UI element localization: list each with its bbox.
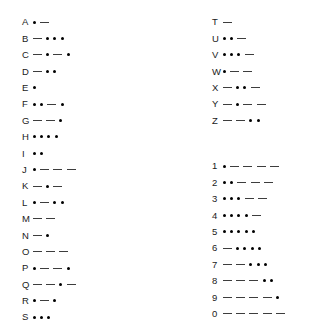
morse-dash-icon <box>243 166 252 167</box>
morse-row: 4 <box>212 207 300 223</box>
morse-dash-icon <box>46 218 55 219</box>
morse-dash-icon <box>40 169 49 170</box>
morse-dash-icon <box>230 166 239 167</box>
morse-row-symbols <box>223 207 261 223</box>
morse-dash-icon <box>243 104 252 105</box>
morse-dash-icon <box>33 38 42 39</box>
morse-row: 6 <box>212 240 300 256</box>
morse-row-character: 9 <box>212 293 223 303</box>
morse-dot-icon <box>243 86 246 89</box>
morse-row-symbols <box>223 273 273 289</box>
morse-row: Z <box>212 112 300 128</box>
morse-row-symbols <box>223 63 252 79</box>
morse-row-symbols <box>33 145 43 161</box>
morse-dot-icon <box>230 214 233 217</box>
morse-row: J <box>22 162 152 178</box>
morse-dash-icon <box>223 120 232 121</box>
morse-dash-icon <box>243 71 252 72</box>
morse-dot-icon <box>270 279 273 282</box>
morse-row-character: J <box>22 165 33 175</box>
morse-dash-icon <box>237 38 246 39</box>
morse-dot-icon <box>61 201 64 204</box>
morse-row: P <box>22 260 152 276</box>
morse-dot-icon <box>61 37 64 40</box>
morse-row-character: Z <box>212 116 223 126</box>
morse-dot-icon <box>40 135 43 138</box>
morse-dot-icon <box>276 296 279 299</box>
morse-row: 7 <box>212 256 300 272</box>
morse-row-symbols <box>33 47 70 63</box>
morse-dash-icon <box>33 218 42 219</box>
morse-dot-icon <box>223 181 226 184</box>
morse-dash-icon <box>249 280 258 281</box>
morse-row-symbols <box>223 224 255 240</box>
morse-dash-icon <box>33 120 42 121</box>
morse-dash-icon <box>236 120 245 121</box>
morse-row-symbols <box>33 276 76 292</box>
morse-row-character: X <box>212 83 223 93</box>
morse-dot-icon <box>237 214 240 217</box>
morse-dash-icon <box>223 313 232 314</box>
morse-dot-icon <box>223 53 226 56</box>
morse-row-symbols <box>223 30 246 46</box>
morse-row-character: K <box>22 181 33 191</box>
morse-row-symbols <box>33 227 49 243</box>
morse-dot-icon <box>223 214 226 217</box>
morse-row-character: 0 <box>212 309 223 319</box>
morse-dash-icon <box>236 313 245 314</box>
morse-dash-icon <box>236 280 245 281</box>
morse-dash-icon <box>53 268 62 269</box>
morse-dot-icon <box>251 247 254 250</box>
morse-row-character: D <box>22 67 33 77</box>
morse-row-symbols <box>223 191 267 207</box>
morse-dash-icon <box>33 186 42 187</box>
morse-dot-icon <box>223 37 226 40</box>
morse-row-symbols <box>33 162 76 178</box>
morse-row-character: E <box>22 83 33 93</box>
morse-row: 0 <box>212 306 300 322</box>
morse-row-character: C <box>22 50 33 60</box>
morse-row-character: S <box>22 312 33 322</box>
morse-dash-icon <box>53 186 62 187</box>
morse-dot-icon <box>230 53 233 56</box>
morse-row-symbols <box>33 129 58 145</box>
morse-row: 2 <box>212 174 300 190</box>
morse-dot-icon <box>236 103 239 106</box>
morse-dash-icon <box>33 251 42 252</box>
morse-row: Q <box>22 276 152 292</box>
morse-dash-icon <box>223 264 232 265</box>
morse-dot-icon <box>33 103 36 106</box>
morse-row: R <box>22 293 152 309</box>
morse-row-character: Q <box>22 280 33 290</box>
morse-dot-icon <box>59 283 62 286</box>
morse-dash-icon <box>33 54 42 55</box>
morse-dash-icon <box>251 87 260 88</box>
morse-row: 5 <box>212 224 300 240</box>
morse-row-symbols <box>223 158 279 174</box>
morse-dash-icon <box>257 104 266 105</box>
morse-dot-icon <box>33 152 36 155</box>
morse-row-symbols <box>223 14 232 30</box>
morse-row-character: H <box>22 132 33 142</box>
morse-dash-icon <box>249 313 258 314</box>
morse-dot-icon <box>46 53 49 56</box>
morse-row-character: T <box>212 17 223 27</box>
morse-dot-icon <box>33 201 36 204</box>
morse-dot-icon <box>33 21 36 24</box>
morse-dot-icon <box>40 152 43 155</box>
morse-dash-icon <box>46 120 55 121</box>
morse-dash-icon <box>67 169 76 170</box>
morse-dash-icon <box>236 264 245 265</box>
morse-row: I <box>22 145 152 161</box>
morse-dot-icon <box>40 103 43 106</box>
morse-row-character: G <box>22 116 33 126</box>
morse-row-character: L <box>22 198 33 208</box>
morse-row-character: A <box>22 17 33 27</box>
morse-row: X <box>212 80 300 96</box>
morse-row-symbols <box>223 96 266 112</box>
morse-dash-icon <box>53 169 62 170</box>
morse-dot-icon <box>46 234 49 237</box>
morse-dot-icon <box>33 299 36 302</box>
morse-dot-icon <box>46 185 49 188</box>
morse-row: Y <box>212 96 300 112</box>
